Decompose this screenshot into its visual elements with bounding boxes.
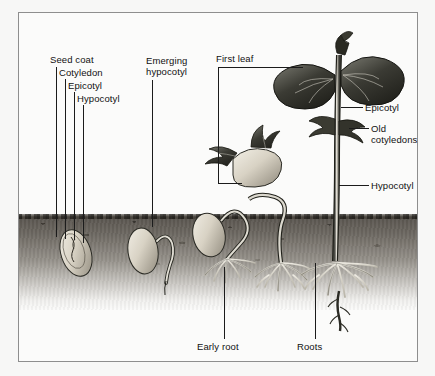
leader-hypocotyl-right bbox=[339, 185, 369, 186]
leader-epicotyl-left bbox=[74, 92, 75, 240]
leader-old-cotyledons bbox=[349, 128, 369, 129]
leader-roots bbox=[315, 263, 316, 339]
label-emerging-hypocotyl-line1: Emerging bbox=[146, 55, 187, 66]
germination-artwork bbox=[19, 13, 418, 362]
leader-first-leaf-branch-top bbox=[218, 67, 303, 68]
label-first-leaf: First leaf bbox=[216, 53, 253, 64]
label-old-cotyledons-line2: cotyledons bbox=[371, 134, 417, 145]
label-emerging-hypocotyl-line2: hypocotyl bbox=[146, 66, 187, 77]
stage-3-early-root bbox=[189, 210, 255, 283]
leader-early-root bbox=[224, 267, 225, 339]
leader-cotyledon bbox=[65, 79, 66, 239]
leader-first-leaf-spine bbox=[218, 67, 219, 184]
label-cotyledon: Cotyledon bbox=[59, 67, 103, 78]
leader-hypocotyl-left bbox=[83, 105, 84, 243]
label-hypocotyl-left: Hypocotyl bbox=[77, 93, 120, 104]
leader-epicotyl-right bbox=[341, 107, 363, 108]
label-roots: Roots bbox=[297, 341, 322, 352]
illustration-frame: Seed coat Cotyledon Epicotyl Hypocotyl E… bbox=[18, 12, 418, 362]
label-seed-coat: Seed coat bbox=[50, 54, 94, 65]
figure-page: Seed coat Cotyledon Epicotyl Hypocotyl E… bbox=[0, 0, 435, 376]
leader-emerging-hypocotyl bbox=[152, 80, 153, 227]
label-epicotyl-right: Epicotyl bbox=[365, 102, 399, 113]
leader-seed-coat bbox=[56, 67, 57, 237]
label-early-root: Early root bbox=[197, 341, 239, 352]
label-epicotyl-left: Epicotyl bbox=[68, 80, 102, 91]
stage-1-dormant-seed bbox=[54, 226, 97, 281]
label-old-cotyledons-line1: Old bbox=[371, 123, 386, 134]
leader-first-leaf-branch-bottom bbox=[218, 183, 242, 184]
label-hypocotyl-right: Hypocotyl bbox=[371, 180, 414, 191]
stage-2-emerging-hypocotyl bbox=[125, 226, 173, 295]
